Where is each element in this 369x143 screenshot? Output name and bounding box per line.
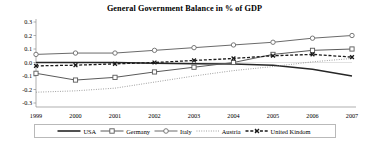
x-tick-label: 1999	[30, 112, 42, 119]
data-point-marker	[231, 60, 235, 64]
series-italy	[34, 33, 354, 56]
legend-item-italy[interactable]: Italy	[153, 127, 195, 135]
data-point-marker	[34, 52, 38, 56]
legend-label: Austria	[220, 128, 243, 135]
data-point-marker	[350, 33, 354, 37]
data-point-marker	[73, 78, 77, 82]
legend-item-united-kindom[interactable]: United Kindom	[244, 127, 314, 135]
x-tick-label: 2005	[267, 112, 279, 119]
x-tick-label: 2006	[306, 112, 318, 119]
legend-swatch-united-kindom	[245, 127, 269, 135]
y-tick-label: -0.2	[22, 86, 32, 93]
x-tick-label: 2000	[69, 112, 81, 119]
data-point-marker	[271, 40, 275, 44]
data-point-marker	[34, 71, 38, 75]
y-tick-label: 0.3	[24, 18, 32, 25]
data-point-marker	[113, 51, 117, 55]
y-tick-label: -0.1	[22, 72, 32, 79]
legend-item-austria[interactable]: Austria	[195, 127, 244, 135]
data-point-marker	[152, 70, 156, 74]
data-point-marker	[231, 43, 235, 47]
legend-swatch-italy	[154, 127, 178, 135]
y-tick-label: -0.3	[22, 99, 32, 106]
y-tick-label: 0.2	[24, 32, 32, 39]
y-axis: 0.30.20.10.0-0.1-0.2-0.3	[22, 18, 36, 107]
legend-item-germany[interactable]: Germany	[99, 127, 153, 135]
x-tick-label: 2003	[188, 112, 200, 119]
legend-label: USA	[81, 128, 98, 135]
data-point-marker	[152, 48, 156, 52]
x-tick-label: 2007	[346, 112, 358, 119]
data-point-marker	[350, 47, 354, 51]
plot-area: 0.30.20.10.0-0.1-0.2-0.3 199920002001200…	[0, 0, 369, 143]
data-point-marker	[192, 65, 196, 69]
legend-label: Germany	[124, 128, 152, 135]
line-chart: 0.30.20.10.0-0.1-0.2-0.3 199920002001200…	[0, 0, 369, 143]
data-point-marker	[310, 48, 314, 52]
data-point-marker	[73, 51, 77, 55]
legend-marker	[164, 129, 169, 134]
y-tick-label: 0.1	[24, 45, 32, 52]
data-point-marker	[310, 36, 314, 40]
chart-root: General Government Balance in % of GDP 0…	[0, 0, 369, 143]
x-tick-label: 2001	[109, 112, 121, 119]
legend-marker	[110, 129, 114, 133]
x-tick-label: 2004	[227, 112, 239, 119]
legend-label: United Kindom	[269, 128, 313, 135]
data-point-marker	[350, 55, 354, 59]
legend-item-usa[interactable]: USA	[56, 127, 99, 135]
legend-swatch-usa	[57, 127, 81, 135]
x-axis: 199920002001200220032004200520062007	[30, 63, 358, 120]
y-tick-label: 0.0	[24, 59, 32, 66]
legend-label: Italy	[178, 128, 194, 135]
legend-swatch-austria	[196, 127, 220, 135]
data-point-marker	[192, 45, 196, 49]
legend-swatch-germany	[100, 127, 124, 135]
chart-legend: USAGermanyItalyAustriaUnited Kindom	[34, 124, 336, 138]
data-point-marker	[113, 75, 117, 79]
x-tick-label: 2002	[148, 112, 160, 119]
